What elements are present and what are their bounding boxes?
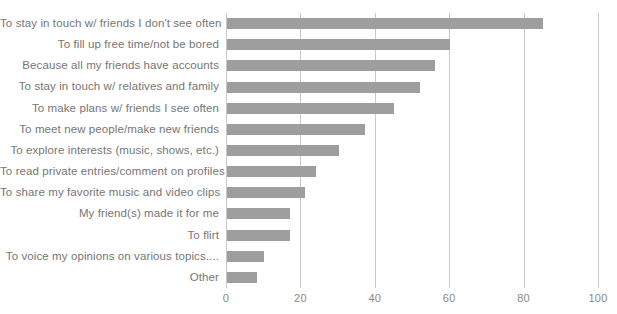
category-label: Because all my friends have accounts: [0, 55, 219, 76]
chart-row: To make plans w/ friends I see often: [0, 98, 617, 119]
bar: [227, 18, 543, 29]
x-tick-label-60: 60: [443, 292, 456, 304]
chart-row: Other: [0, 267, 617, 288]
chart-row: To explore interests (music, shows, etc.…: [0, 140, 617, 161]
category-label: To read private entries/comment on profi…: [0, 161, 219, 182]
chart-row: To fill up free time/not be bored: [0, 34, 617, 55]
x-tick-label-80: 80: [517, 292, 530, 304]
bar: [227, 166, 316, 177]
bar: [227, 60, 435, 71]
bar: [227, 187, 305, 198]
bar: [227, 39, 450, 50]
bar: [227, 208, 290, 219]
chart-row: To flirt: [0, 225, 617, 246]
category-label: To stay in touch w/ friends I don't see …: [0, 13, 219, 34]
category-label: Other: [0, 267, 219, 288]
category-label: To meet new people/make new friends: [0, 119, 219, 140]
category-label: To stay in touch w/ relatives and family: [0, 76, 219, 97]
x-tick-label-0: 0: [223, 292, 229, 304]
category-label: To flirt: [0, 225, 219, 246]
chart-row: My friend(s) made it for me: [0, 203, 617, 224]
chart-row: To stay in touch w/ relatives and family: [0, 76, 617, 97]
category-label: To voice my opinions on various topics..…: [0, 246, 219, 267]
x-tick-label-20: 20: [294, 292, 307, 304]
bar: [227, 103, 394, 114]
category-label: To share my favorite music and video cli…: [0, 182, 219, 203]
bar: [227, 145, 339, 156]
bar: [227, 82, 420, 93]
bar: [227, 251, 264, 262]
bar: [227, 230, 290, 241]
x-tick-label-40: 40: [368, 292, 381, 304]
chart-row: Because all my friends have accounts: [0, 55, 617, 76]
x-tick-label-100: 100: [589, 292, 608, 304]
category-label: To explore interests (music, shows, etc.…: [0, 140, 219, 161]
category-label: To fill up free time/not be bored: [0, 34, 219, 55]
category-label: My friend(s) made it for me: [0, 203, 219, 224]
chart-row: To stay in touch w/ friends I don't see …: [0, 13, 617, 34]
chart-row: To share my favorite music and video cli…: [0, 182, 617, 203]
category-label: To make plans w/ friends I see often: [0, 98, 219, 119]
bar-chart: To stay in touch w/ friends I don't see …: [0, 0, 617, 314]
chart-row: To meet new people/make new friends: [0, 119, 617, 140]
chart-row: To read private entries/comment on profi…: [0, 161, 617, 182]
bar: [227, 272, 257, 283]
chart-row: To voice my opinions on various topics..…: [0, 246, 617, 267]
bar: [227, 124, 365, 135]
